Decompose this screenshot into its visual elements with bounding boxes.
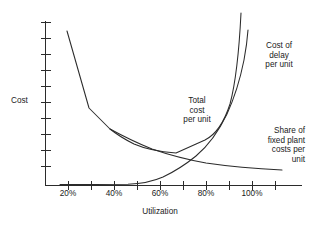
x-axis-label: Utilization bbox=[122, 207, 198, 217]
annotation-share-of-fixed-plant-costs-per-unit: Share of fixed plant costs per unit bbox=[237, 126, 305, 164]
series-total-cost-per-unit bbox=[67, 13, 241, 153]
x-tick-label-40: 40% bbox=[91, 189, 137, 198]
annotation-cost-of-delay-per-unit: Cost of delay per unit bbox=[252, 41, 306, 70]
chart-figure: Cost Utilization 20% 40% 60% 80% 100% To… bbox=[0, 0, 313, 231]
x-tick-label-100: 100% bbox=[227, 189, 277, 198]
x-tick-label-80: 80% bbox=[183, 189, 229, 198]
annotation-total-cost-per-unit: Total cost per unit bbox=[168, 96, 226, 125]
y-axis-label: Cost bbox=[11, 96, 41, 106]
x-tick-label-20: 20% bbox=[45, 189, 91, 198]
x-tick-label-60: 60% bbox=[137, 189, 183, 198]
